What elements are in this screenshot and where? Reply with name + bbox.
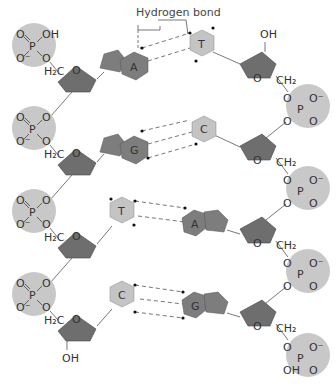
svg-text:C: C [200, 123, 208, 136]
svg-text:O: O [309, 115, 318, 128]
left-sugar-3: H₂C O [44, 230, 96, 258]
svg-text:CH₂: CH₂ [276, 322, 296, 335]
svg-text:G: G [130, 144, 139, 157]
left-phosphate-2: O O P O⁻ O [12, 106, 56, 150]
svg-text:O: O [72, 64, 81, 77]
svg-text:O: O [72, 147, 81, 160]
svg-text:CH₂: CH₂ [276, 156, 296, 169]
dna-svg: Hydrogen bond O O [0, 0, 336, 388]
svg-text:O: O [283, 92, 292, 105]
base-pair-1: A T [100, 26, 215, 80]
left-sugar-4: H₂C O OH [44, 313, 96, 365]
left-phosphate-1: O OH P O⁻ O [12, 23, 59, 67]
svg-text:O: O [253, 154, 262, 167]
right-sugar-1: OH O CH₂ [240, 28, 296, 87]
right-phosphate-3: O O⁻ P O O [283, 249, 330, 293]
svg-text:O: O [309, 197, 318, 210]
left-sugar-1: H₂C O [44, 64, 96, 92]
svg-text:O: O [253, 72, 262, 85]
svg-text:OH: OH [283, 364, 300, 377]
base-pair-4: C G [110, 281, 228, 320]
hydrogen-bonds [135, 33, 196, 318]
svg-text:O: O [283, 115, 292, 128]
svg-text:CH₂: CH₂ [276, 74, 296, 87]
right-sugar-3: O CH₂ [240, 217, 296, 252]
base-thymine-1: T [190, 30, 214, 56]
right-phosphate-2: O O⁻ P O O [283, 166, 330, 210]
base-pair-2: G C [100, 116, 216, 164]
svg-text:O: O [283, 280, 292, 293]
svg-text:O: O [42, 52, 51, 65]
svg-text:O: O [42, 194, 51, 207]
svg-text:O: O [16, 111, 25, 124]
base-cytosine-2: C [192, 116, 216, 142]
svg-text:O: O [42, 301, 51, 314]
right-phosphate-1: O O⁻ P O O [283, 84, 330, 128]
svg-text:O⁻: O⁻ [16, 135, 31, 148]
svg-text:T: T [197, 38, 205, 51]
right-phosphate-4: O O⁻ P OH O [283, 333, 330, 377]
svg-text:H₂C: H₂C [44, 314, 65, 327]
base-guanine-2: G [100, 134, 148, 164]
svg-text:O: O [309, 280, 318, 293]
svg-text:P: P [297, 268, 304, 281]
svg-text:P: P [297, 103, 304, 116]
base-adenine-1: A [100, 50, 148, 80]
left-phosphate-3: O O P O⁻ O [12, 189, 56, 233]
svg-text:O: O [16, 277, 25, 290]
base-cytosine-4: C [110, 281, 134, 307]
svg-text:O⁻: O⁻ [309, 174, 324, 187]
svg-text:CH₂: CH₂ [276, 239, 296, 252]
svg-text:O: O [16, 194, 25, 207]
right-sugar-2: O CH₂ [240, 134, 296, 169]
svg-text:O⁻: O⁻ [309, 92, 324, 105]
svg-text:O: O [42, 135, 51, 148]
svg-text:O⁻: O⁻ [309, 341, 324, 354]
svg-text:O: O [42, 277, 51, 290]
svg-text:O: O [253, 320, 262, 333]
left-sugar-2: H₂C O [44, 147, 96, 175]
base-thymine-3: T [110, 197, 134, 223]
svg-text:O: O [283, 197, 292, 210]
svg-text:A: A [130, 61, 138, 74]
svg-text:O: O [42, 218, 51, 231]
svg-text:T: T [117, 205, 125, 218]
svg-text:O: O [309, 364, 318, 377]
svg-text:H₂C: H₂C [44, 231, 65, 244]
base-pair-3: T A [109, 197, 228, 236]
svg-text:A: A [191, 218, 199, 231]
svg-text:P: P [297, 185, 304, 198]
svg-text:OH: OH [42, 28, 59, 41]
left-backbone [50, 62, 112, 326]
left-phosphate-4: O O P O⁻ O [12, 272, 56, 316]
left-terminal-oh: OH [62, 352, 79, 365]
svg-text:O⁻: O⁻ [16, 52, 31, 65]
svg-text:O⁻: O⁻ [309, 257, 324, 270]
svg-text:O: O [72, 313, 81, 326]
right-sugar-4: O CH₂ [240, 300, 296, 335]
svg-text:O: O [16, 28, 25, 41]
svg-text:G: G [191, 300, 200, 313]
svg-text:O⁻: O⁻ [16, 301, 31, 314]
svg-text:O: O [283, 257, 292, 270]
svg-text:H₂C: H₂C [44, 65, 65, 78]
svg-text:O: O [72, 230, 81, 243]
base-guanine-4: G [182, 292, 228, 318]
svg-text:C: C [118, 289, 126, 302]
svg-text:O: O [283, 341, 292, 354]
svg-text:O: O [283, 174, 292, 187]
dna-structure-diagram: Hydrogen bond O O [0, 0, 336, 388]
svg-text:O: O [42, 111, 51, 124]
svg-text:O⁻: O⁻ [16, 218, 31, 231]
svg-text:H₂C: H₂C [44, 148, 65, 161]
svg-text:O: O [253, 237, 262, 250]
right-terminal-oh: OH [260, 28, 277, 41]
base-adenine-3: A [182, 210, 228, 236]
hydrogen-bond-label: Hydrogen bond [136, 6, 221, 19]
